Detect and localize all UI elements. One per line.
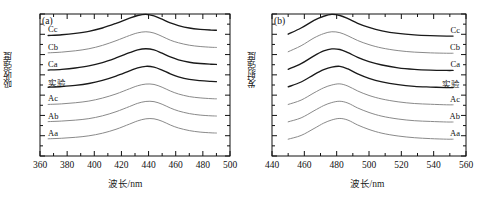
panel-b: 发射强度 (b) 440460480500520540560 CcCbCa实验A… bbox=[244, 0, 487, 202]
panel-a: 吸收强度 (a) 360380400420440460480500 CcCbCa… bbox=[0, 0, 243, 202]
curve-label-Ca: Ca bbox=[451, 59, 460, 69]
xtick-label: 480 bbox=[196, 160, 210, 170]
xtick-label: 440 bbox=[265, 160, 279, 170]
xtick-label: 420 bbox=[114, 160, 128, 170]
curve-label-Ac: Ac bbox=[48, 93, 58, 103]
curve-label-Ca: Ca bbox=[48, 59, 57, 69]
curve-label-Aa: Aa bbox=[48, 128, 58, 138]
figure-container: 吸收强度 (a) 360380400420440460480500 CcCbCa… bbox=[0, 0, 487, 202]
xtick-label: 400 bbox=[87, 160, 101, 170]
xtick-label: 560 bbox=[459, 160, 473, 170]
xtick-label: 440 bbox=[141, 160, 155, 170]
curve-label-Cb: Cb bbox=[450, 42, 460, 52]
xtick-label: 500 bbox=[223, 160, 237, 170]
xtick-label: 460 bbox=[297, 160, 311, 170]
xtick-label: 460 bbox=[169, 160, 183, 170]
curve-label-Ab: Ab bbox=[450, 111, 460, 121]
xtick-label: 480 bbox=[330, 160, 344, 170]
panel-a-xlabel: 波长/nm bbox=[60, 176, 190, 190]
curve-label-实验: 实验 bbox=[442, 77, 460, 89]
xtick-label: 360 bbox=[33, 160, 47, 170]
curve-label-实验: 实验 bbox=[48, 76, 66, 88]
curve-label-Cc: Cc bbox=[48, 24, 57, 34]
xtick-label: 380 bbox=[60, 160, 74, 170]
curve-label-Cc: Cc bbox=[451, 25, 460, 35]
xtick-label: 520 bbox=[394, 160, 408, 170]
curve-label-Cb: Cb bbox=[48, 42, 58, 52]
panel-a-plot bbox=[0, 0, 243, 202]
curve-label-Aa: Aa bbox=[450, 128, 460, 138]
panel-b-xlabel: 波长/nm bbox=[302, 176, 432, 190]
xtick-label: 540 bbox=[427, 160, 441, 170]
xtick-label: 500 bbox=[362, 160, 376, 170]
curve-label-Ab: Ab bbox=[48, 111, 58, 121]
curve-label-Ac: Ac bbox=[450, 94, 460, 104]
